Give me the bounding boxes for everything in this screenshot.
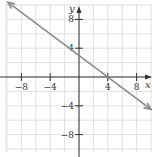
x-tick-label: 8 bbox=[134, 82, 140, 92]
y-tick-label: −4 bbox=[61, 101, 75, 111]
x-tick-label: 4 bbox=[105, 82, 111, 92]
y-axis-arrow-icon bbox=[77, 6, 82, 13]
y-axis-label: y bbox=[68, 3, 75, 14]
coordinate-plane: −8−44884−4−8 x y bbox=[0, 0, 152, 157]
y-tick-label: 8 bbox=[68, 14, 74, 24]
y-tick-label: −8 bbox=[61, 130, 75, 140]
x-tick-label: −8 bbox=[15, 82, 29, 92]
x-tick-label: −4 bbox=[44, 82, 58, 92]
x-axis-label: x bbox=[145, 79, 151, 90]
